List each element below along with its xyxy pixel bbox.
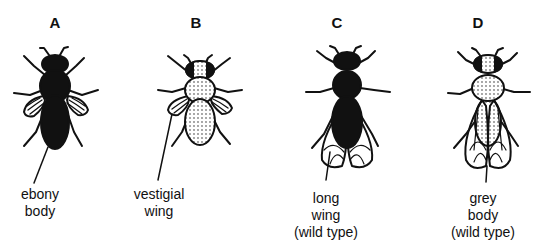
fly-c-long-wing [306, 46, 390, 180]
caption-a-line2: body [0, 203, 95, 220]
caption-c-line2: wing [271, 207, 381, 224]
caption-d-line1: grey [428, 190, 538, 207]
fly-d-grey-body [448, 48, 530, 182]
caption-c: long wing (wild type) [271, 190, 381, 241]
fly-a-ebony-body [14, 47, 98, 183]
caption-b-line2: wing [104, 203, 214, 220]
caption-c-line3: (wild type) [271, 224, 381, 241]
caption-a: ebony body [0, 186, 95, 220]
caption-b: vestigial wing [104, 186, 214, 220]
caption-d-line2: body [428, 207, 538, 224]
caption-a-line1: ebony [0, 186, 95, 203]
caption-d-line3: (wild type) [428, 224, 538, 241]
fly-b-vestigial-wing [158, 55, 242, 180]
caption-c-line1: long [271, 190, 381, 207]
caption-d: grey body (wild type) [428, 190, 538, 241]
caption-b-line1: vestigial [104, 186, 214, 203]
